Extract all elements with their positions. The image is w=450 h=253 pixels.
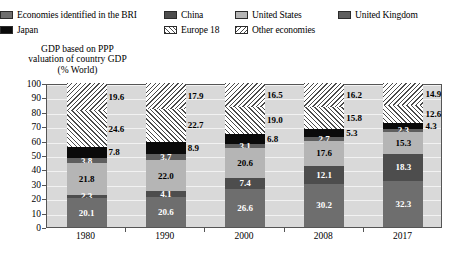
value-label-1990-bri: 20.6: [146, 208, 186, 217]
legend-swatch-bri-icon: [0, 11, 13, 19]
bar-2017[interactable]: 14.912.64.32.315.318.332.3: [383, 83, 423, 227]
value-label-2000-japan: 6.8: [267, 135, 278, 144]
bar-segment-1990-bri: 20.6: [146, 197, 186, 227]
bar-segment-2000-china: 7.4: [225, 178, 265, 189]
bar-2008[interactable]: 16.215.85.32.717.612.130.2: [304, 83, 344, 227]
bar-segment-1980-eu18: 24.6: [67, 111, 107, 146]
y-tick-label-90: 90: [32, 94, 42, 103]
bar-segment-1990-eu18: 22.7: [146, 109, 186, 142]
legend-label-china: China: [181, 10, 203, 20]
y-tick-label-0: 0: [36, 224, 41, 233]
y-tick-label-70: 70: [32, 123, 42, 132]
value-label-2000-china: 7.4: [225, 179, 265, 188]
bar-segment-2000-us: 20.6: [225, 148, 265, 178]
y-axis-title-line-3: (% World): [10, 65, 145, 75]
bar-segment-1990-us: 22.0: [146, 160, 186, 192]
value-label-2008-bri: 30.2: [304, 201, 344, 210]
value-label-1990-us: 22.0: [146, 171, 186, 180]
bar-segment-2008-us: 17.6: [304, 141, 344, 166]
value-label-1980-bri: 20.1: [67, 208, 107, 217]
value-label-2017-japan: 4.3: [425, 121, 436, 130]
value-label-1980-japan: 7.8: [109, 148, 120, 157]
x-tick-2008: [284, 228, 285, 232]
y-tick-label-50: 50: [32, 152, 42, 161]
bar-segment-2000-other: 16.5: [225, 83, 265, 107]
bar-1990[interactable]: 17.922.78.93.722.04.120.6: [146, 83, 186, 227]
y-axis: 0102030405060708090100: [0, 84, 46, 228]
bar-segment-2017-other: 14.9: [383, 83, 423, 104]
legend-label-bri: Economies identified in the BRI: [17, 10, 137, 20]
value-label-2008-us: 17.6: [304, 149, 344, 158]
bar-2000[interactable]: 16.519.06.83.120.67.426.6: [225, 83, 265, 227]
y-tick-0: [42, 228, 46, 229]
y-tick-label-80: 80: [32, 108, 42, 117]
bar-segment-2000-eu18: 19.0: [225, 107, 265, 134]
bar-segment-2017-bri: 32.3: [383, 181, 423, 228]
value-label-2017-other: 14.9: [425, 89, 441, 98]
value-label-1990-eu18: 22.7: [188, 121, 204, 130]
legend-row-1: Economies identified in the BRIChinaUnit…: [0, 8, 450, 23]
legend-swatch-japan-icon: [0, 26, 13, 34]
legend-swatch-other-icon: [235, 26, 248, 34]
bar-segment-2008-other: 16.2: [304, 83, 344, 106]
y-tick-label-40: 40: [32, 166, 42, 175]
legend-label-us: United States: [252, 10, 302, 20]
legend-item-eu18[interactable]: Europe 18: [164, 25, 219, 35]
x-tick-label-1980: 1980: [46, 231, 126, 241]
bar-segment-2017-eu18: 12.6: [383, 105, 423, 123]
legend-label-other: Other economies: [252, 25, 315, 35]
bar-segment-1990-other: 17.9: [146, 83, 186, 109]
y-axis-title-line-1: GDP based on PPP: [10, 44, 145, 54]
legend-label-eu18: Europe 18: [181, 25, 219, 35]
x-tick-2000: [204, 228, 205, 232]
value-label-2000-other: 16.5: [267, 90, 283, 99]
value-label-1980-us: 21.8: [67, 175, 107, 184]
value-label-2000-us: 20.6: [225, 159, 265, 168]
bar-segment-2008-bri: 30.2: [304, 184, 344, 227]
legend-swatch-china-icon: [164, 11, 177, 19]
x-tick-2017: [363, 228, 364, 232]
bar-segment-2000-bri: 26.6: [225, 189, 265, 227]
value-label-1990-japan: 8.9: [188, 144, 199, 153]
y-axis-title: GDP based on PPP valuation of country GD…: [10, 44, 145, 75]
y-tick-label-100: 100: [27, 80, 41, 89]
plot-area: 19.624.67.83.821.82.320.117.922.78.93.72…: [46, 84, 442, 228]
bar-segment-2008-china: 12.1: [304, 166, 344, 183]
legend-item-other[interactable]: Other economies: [235, 25, 315, 35]
value-label-2008-china: 12.1: [304, 170, 344, 179]
y-axis-title-line-2: valuation of country GDP: [10, 54, 145, 64]
legend-item-bri[interactable]: Economies identified in the BRI: [0, 10, 137, 20]
value-label-1980-eu18: 24.6: [109, 124, 125, 133]
x-axis: 19801990200020082017: [46, 231, 442, 247]
legend-swatch-eu18-icon: [164, 26, 177, 34]
value-label-2017-eu18: 12.6: [425, 109, 441, 118]
value-label-2008-eu18: 15.8: [346, 113, 362, 122]
bar-segment-2008-eu18: 15.8: [304, 107, 344, 130]
x-tick-label-2008: 2008: [283, 231, 363, 241]
value-label-2017-us: 15.3: [383, 139, 423, 148]
y-tick-label-30: 30: [32, 180, 42, 189]
value-label-2000-bri: 26.6: [225, 203, 265, 212]
value-label-2000-eu18: 19.0: [267, 116, 283, 125]
x-tick-1990: [125, 228, 126, 232]
legend-row-2: JapanEurope 18Other economies: [0, 23, 450, 38]
legend-item-uk[interactable]: United Kingdom: [338, 10, 418, 20]
x-tick-label-2000: 2000: [204, 231, 284, 241]
legend-label-japan: Japan: [17, 25, 38, 35]
value-label-2017-china: 18.3: [383, 163, 423, 172]
y-tick-label-60: 60: [32, 137, 42, 146]
value-label-1990-other: 17.9: [188, 92, 204, 101]
x-tick-label-2017: 2017: [362, 231, 442, 241]
bar-segment-1980-bri: 20.1: [67, 198, 107, 227]
value-label-1980-other: 19.6: [109, 93, 125, 102]
bar-segment-2017-us: 15.3: [383, 132, 423, 154]
legend-label-uk: United Kingdom: [355, 10, 418, 20]
legend-swatch-us-icon: [235, 11, 248, 19]
legend-item-us[interactable]: United States: [235, 10, 302, 20]
value-label-2017-bri: 32.3: [383, 199, 423, 208]
y-tick-label-20: 20: [32, 195, 42, 204]
legend-item-china[interactable]: China: [164, 10, 203, 20]
bar-segment-1980-other: 19.6: [67, 83, 107, 111]
legend-item-japan[interactable]: Japan: [0, 25, 38, 35]
bar-1980[interactable]: 19.624.67.83.821.82.320.1: [67, 83, 107, 227]
